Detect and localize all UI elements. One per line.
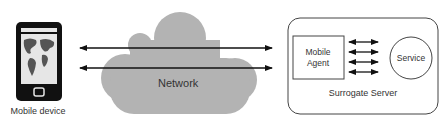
surrogate-server-label: Surrogate Server	[329, 88, 398, 98]
architecture-diagram: Mobile device Network Mobile Agent Servi…	[0, 0, 443, 125]
mobile-device	[16, 22, 62, 101]
network-label: Network	[158, 77, 199, 89]
network-cloud-icon	[101, 12, 257, 114]
mobile-device-label: Mobile device	[10, 106, 65, 116]
service-label: Service	[397, 53, 426, 63]
mobile-agent-label-1: Mobile	[305, 47, 330, 57]
mobile-agent-label-2: Agent	[307, 58, 330, 68]
